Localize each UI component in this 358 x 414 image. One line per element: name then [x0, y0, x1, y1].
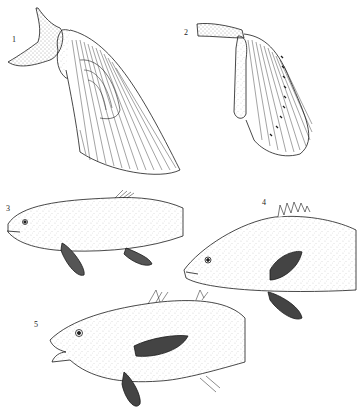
figure-4-spiny-fish — [184, 202, 356, 319]
figure-label-4: 4 — [262, 198, 266, 207]
figure-label-1: 1 — [12, 35, 16, 44]
illustration-plate: 1 2 3 4 5 — [0, 0, 358, 414]
figure-2-rayed-fin — [197, 23, 312, 155]
figure-label-3: 3 — [6, 204, 10, 213]
fin-illustrations — [0, 0, 358, 414]
figure-label-2: 2 — [184, 28, 188, 37]
figure-3-elongate-fish — [7, 190, 183, 275]
figure-5-jugular-fish — [50, 290, 245, 406]
figure-label-5: 5 — [34, 320, 38, 329]
figure-1-lobed-fin — [8, 8, 180, 174]
